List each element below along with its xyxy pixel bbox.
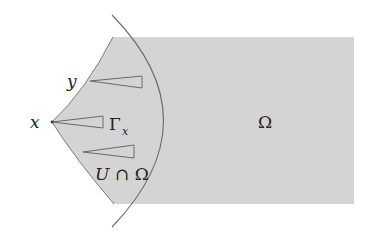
label-gamma: Γ <box>109 114 121 134</box>
label-y: y <box>66 71 77 91</box>
label-U: U <box>95 164 110 184</box>
label-gamma-subscript: x <box>122 125 129 138</box>
label-intersect-omega: ∩ Ω <box>115 164 149 184</box>
label-x: x <box>30 112 40 132</box>
diagram-canvas: y x Γ x U ∩ Ω Ω <box>0 0 371 241</box>
label-omega: Ω <box>258 112 272 132</box>
point-x-marker <box>51 121 54 124</box>
